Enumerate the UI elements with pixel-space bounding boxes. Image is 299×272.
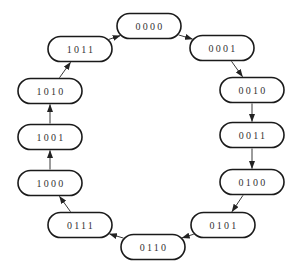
state-node-label: 1001: [37, 132, 66, 143]
state-node-label: 0000: [136, 21, 165, 32]
transition-arrow-0100-to-0101: [232, 195, 243, 211]
state-node-0000: 0000: [117, 14, 181, 39]
transition-arrow-0111-to-1000: [60, 196, 71, 211]
state-node-label: 0010: [239, 85, 268, 96]
state-node-0011: 0011: [220, 123, 284, 148]
state-node-label: 1000: [37, 178, 66, 189]
transition-arrow-0001-to-0010: [232, 61, 243, 76]
transition-arrow-1010-to-1011: [60, 62, 71, 77]
state-node-0110: 0110: [121, 235, 185, 260]
transition-arrow-1011-to-0000: [109, 36, 120, 40]
state-node-1001: 1001: [18, 125, 82, 150]
state-diagram: 0000000100100011010001010110011110001001…: [0, 0, 299, 272]
state-node-0001: 0001: [190, 36, 254, 61]
state-node-label: 1011: [67, 44, 95, 55]
transition-arrow-0110-to-0111: [110, 234, 124, 238]
state-node-0010: 0010: [220, 78, 284, 103]
state-nodes: 0000000100100011010001010110011110001001…: [18, 14, 284, 260]
state-node-label: 1010: [37, 86, 66, 97]
state-node-label: 0100: [239, 177, 268, 188]
state-node-label: 0110: [140, 242, 168, 253]
state-node-label: 0101: [210, 220, 239, 231]
state-node-label: 0111: [67, 220, 95, 231]
state-node-1000: 1000: [18, 171, 82, 196]
transition-arrow-0101-to-0110: [182, 234, 194, 238]
state-node-0101: 0101: [191, 213, 255, 238]
state-node-label: 0011: [239, 130, 267, 141]
transition-arrow-0000-to-0001: [179, 35, 193, 39]
state-node-1011: 1011: [48, 37, 112, 62]
state-node-0100: 0100: [220, 170, 284, 195]
state-node-label: 0001: [209, 43, 238, 54]
state-node-1010: 1010: [18, 79, 82, 104]
state-node-0111: 0111: [48, 213, 112, 238]
